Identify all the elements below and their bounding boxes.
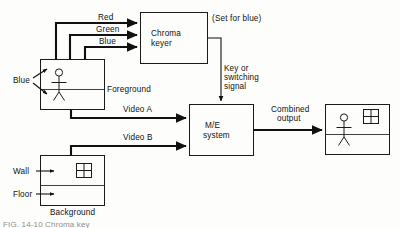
me-system-label-line1: M/E	[205, 121, 220, 130]
output-monitor-frame	[326, 105, 390, 155]
key-signal-line	[208, 38, 222, 101]
background-monitor-frame	[41, 156, 105, 206]
window-icon-output	[364, 110, 379, 124]
figure-svg: Chroma keyer M/E system Foreground Backg…	[0, 0, 400, 228]
chroma-key-diagram: Chroma keyer M/E system Foreground Backg…	[0, 0, 400, 228]
red-label: Red	[98, 13, 114, 22]
me-system-label-line2: system	[203, 131, 230, 140]
output-stick-figure	[337, 114, 352, 146]
green-label: Green	[96, 25, 120, 34]
combined-output-label-line1: Combined	[271, 105, 310, 114]
wall-label: Wall	[13, 167, 29, 176]
window-icon-background	[77, 164, 92, 178]
chroma-keyer-label-line1: Chroma	[151, 29, 181, 38]
foreground-monitor-frame	[41, 60, 105, 110]
foreground-label: Foreground	[107, 85, 151, 94]
background-monitor	[41, 156, 105, 206]
video-a-label: Video A	[123, 105, 153, 114]
output-monitor	[326, 105, 390, 155]
set-for-blue-label: (Set for blue)	[212, 14, 262, 23]
video-b-label: Video B	[123, 133, 153, 142]
video-b-line	[71, 146, 186, 156]
blue-backing-label: Blue	[13, 76, 30, 85]
figure-caption: FIG. 14-10 Chroma key	[3, 220, 90, 228]
key-signal-label-line1: Key or	[224, 64, 249, 73]
me-system-box	[190, 105, 254, 156]
key-signal-label-line3: signal	[224, 82, 246, 91]
chroma-keyer-label-line2: keyer	[151, 39, 172, 48]
background-label: Background	[50, 208, 95, 217]
combined-output-label-line2: output	[277, 114, 301, 123]
blue-label: Blue	[99, 37, 116, 46]
foreground-stick-figure	[52, 69, 67, 101]
blue-signal-line	[85, 47, 137, 60]
key-signal-label-line2: switching	[224, 73, 259, 82]
floor-label: Floor	[13, 190, 33, 199]
foreground-monitor	[41, 60, 105, 110]
chroma-keyer-box	[141, 13, 208, 64]
